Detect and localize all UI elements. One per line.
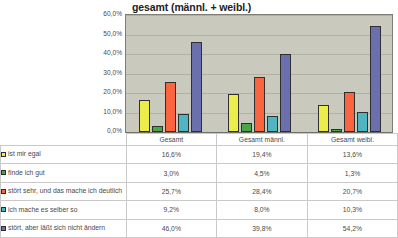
bar[interactable] xyxy=(318,105,329,132)
bar[interactable] xyxy=(178,114,189,132)
y-axis-tick-label: 30,0% xyxy=(88,69,122,76)
table-cell-value: 4,5% xyxy=(217,164,308,182)
table-cell-value: 54,2% xyxy=(307,219,398,237)
table-row: stört sehr, und das mache ich deutlich25… xyxy=(1,182,398,200)
table-cell-value: 8,0% xyxy=(217,201,308,219)
plot-area xyxy=(125,14,393,133)
legend-label: stört, aber läßt sich nicht ändern xyxy=(8,224,126,232)
table-header-row: Gesamt Gesamt männl. Gesamt weibl. xyxy=(1,134,398,146)
table-cell-value: 10,3% xyxy=(307,201,398,219)
column-header-gesamt-maennl: Gesamt männl. xyxy=(217,134,308,146)
table-row: finde ich gut3,0%4,5%1,3% xyxy=(1,164,398,182)
legend-entry[interactable]: finde ich gut xyxy=(1,164,127,182)
column-header-gesamt-weibl: Gesamt weibl. xyxy=(307,134,398,146)
table-row: ich mache es selber so9,2%8,0%10,3% xyxy=(1,201,398,219)
bar-group-gesamt-m-nnl xyxy=(215,15,304,132)
bar[interactable] xyxy=(370,26,381,132)
bar-group-gesamt xyxy=(126,15,215,132)
table-row: stört, aber läßt sich nicht ändern46,0%3… xyxy=(1,219,398,237)
legend-label: ich mache es selber so xyxy=(8,206,126,214)
bar[interactable] xyxy=(152,126,163,132)
table-cell-value: 39,8% xyxy=(217,219,308,237)
table-cell-value: 19,4% xyxy=(217,146,308,164)
bar[interactable] xyxy=(191,42,202,132)
legend-label: stört sehr, und das mache ich deutlich xyxy=(8,187,126,195)
table-cell-value: 16,6% xyxy=(126,146,217,164)
table-cell-value: 46,0% xyxy=(126,219,217,237)
bar[interactable] xyxy=(344,92,355,132)
bar-group-gesamt-weibl xyxy=(305,15,394,132)
table-cell-value: 28,4% xyxy=(217,182,308,200)
legend-swatch-icon xyxy=(1,207,6,212)
legend-label: finde ich gut xyxy=(8,169,126,177)
table-corner-cell xyxy=(1,134,127,146)
table-cell-value: 1,3% xyxy=(307,164,398,182)
table-cell-value: 13,6% xyxy=(307,146,398,164)
legend-swatch-icon xyxy=(1,152,6,157)
y-axis: 60,0%50,0%40,0%30,0%20,0%10,0%0,0% xyxy=(88,9,122,139)
y-axis-tick-label: 10,0% xyxy=(88,108,122,115)
bar[interactable] xyxy=(165,82,176,132)
legend-label: ist mir egal xyxy=(8,150,126,158)
legend-entry[interactable]: stört, aber läßt sich nicht ändern xyxy=(1,219,127,237)
legend-entry[interactable]: ist mir egal xyxy=(1,146,127,164)
legend-entry[interactable]: ich mache es selber so xyxy=(1,201,127,219)
y-axis-tick-label: 50,0% xyxy=(88,30,122,37)
bar[interactable] xyxy=(241,123,252,132)
y-axis-tick-label: 60,0% xyxy=(88,10,122,17)
table-cell-value: 25,7% xyxy=(126,182,217,200)
legend-swatch-icon xyxy=(1,170,6,175)
table-body: ist mir egal16,6%19,4%13,6%finde ich gut… xyxy=(1,146,398,238)
column-header-gesamt: Gesamt xyxy=(126,134,217,146)
chart-title: gesamt (männl. + weibl.) xyxy=(132,1,332,14)
table-row: ist mir egal16,6%19,4%13,6% xyxy=(1,146,398,164)
y-axis-tick-label: 20,0% xyxy=(88,88,122,95)
data-table: Gesamt Gesamt männl. Gesamt weibl. ist m… xyxy=(0,133,398,238)
legend-swatch-icon xyxy=(1,189,6,194)
bar[interactable] xyxy=(267,116,278,132)
table-cell-value: 9,2% xyxy=(126,201,217,219)
bar[interactable] xyxy=(331,129,342,132)
bar[interactable] xyxy=(254,77,265,132)
bar[interactable] xyxy=(139,100,150,132)
table-cell-value: 3,0% xyxy=(126,164,217,182)
bar[interactable] xyxy=(280,54,291,132)
table-cell-value: 20,7% xyxy=(307,182,398,200)
bar[interactable] xyxy=(357,112,368,132)
y-axis-tick-label: 40,0% xyxy=(88,49,122,56)
legend-entry[interactable]: stört sehr, und das mache ich deutlich xyxy=(1,182,127,200)
bar[interactable] xyxy=(228,94,239,132)
legend-swatch-icon xyxy=(1,226,6,231)
